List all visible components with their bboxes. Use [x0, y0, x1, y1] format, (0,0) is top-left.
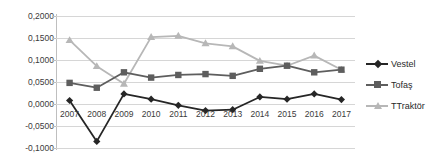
data-point-marker — [66, 36, 74, 43]
series-tofa- — [66, 63, 344, 91]
data-point-marker — [120, 80, 128, 87]
data-point-marker — [94, 85, 100, 91]
x-axis-tick-label: 2010 — [142, 110, 161, 119]
x-axis-tick-label: 2012 — [196, 110, 215, 119]
legend-item-label: TTraktör — [391, 102, 425, 111]
chart-legend: VestelTofaşTTraktör — [366, 56, 444, 119]
data-point-marker — [257, 66, 263, 72]
data-point-marker — [338, 66, 344, 72]
data-point-marker — [311, 69, 317, 75]
data-point-marker — [120, 90, 127, 97]
data-point-marker — [148, 96, 155, 103]
legend-swatch-icon — [366, 58, 388, 70]
data-point-marker — [283, 96, 290, 103]
legend-item-vestel[interactable]: Vestel — [366, 56, 444, 72]
data-point-marker — [284, 63, 290, 69]
legend-swatch-icon — [366, 100, 388, 112]
data-point-marker — [175, 102, 182, 109]
x-axis-tick-label: 2009 — [114, 110, 133, 119]
data-point-marker — [256, 93, 263, 100]
x-axis-tick-label: 2017 — [332, 110, 351, 119]
x-axis-tick-label: 2015 — [278, 110, 297, 119]
legend-item-ttrakt-r[interactable]: TTraktör — [366, 98, 444, 114]
data-point-marker — [338, 96, 345, 103]
legend-item-tofa-[interactable]: Tofaş — [366, 77, 444, 93]
x-axis-tick-label: 2013 — [223, 110, 242, 119]
data-point-marker — [148, 74, 154, 80]
x-axis-tick-label: 2011 — [169, 110, 187, 119]
data-point-marker — [121, 69, 127, 75]
data-point-marker — [310, 52, 318, 59]
data-point-marker — [229, 73, 235, 79]
data-point-marker — [66, 80, 72, 86]
x-axis-tick-label: 2014 — [250, 110, 269, 119]
series-ttrakt-r — [66, 32, 346, 87]
data-point-marker — [311, 90, 318, 97]
line-chart: 0,20000,15000,10000,05000,0000-0,0500-0,… — [0, 0, 444, 162]
legend-item-label: Tofaş — [391, 81, 413, 90]
legend-item-label: Vestel — [391, 60, 416, 69]
x-axis-tick-label: 2008 — [87, 110, 106, 119]
data-point-marker — [202, 71, 208, 77]
x-axis-tick-label: 2016 — [305, 110, 324, 119]
x-axis-tick-label: 2007 — [60, 110, 79, 119]
legend-swatch-icon — [366, 79, 388, 91]
data-point-marker — [175, 72, 181, 78]
